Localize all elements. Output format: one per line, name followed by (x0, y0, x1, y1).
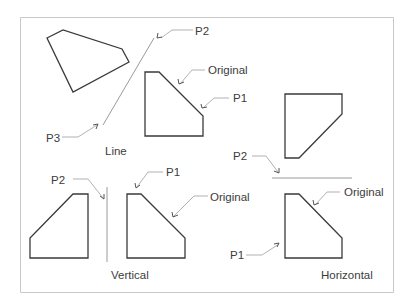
label-p1-line: P1 (233, 92, 247, 104)
diagram-border (21, 18, 394, 293)
label-p3: P3 (46, 132, 60, 144)
label-original-vertical: Original (210, 191, 250, 203)
label-p2-vertical: P2 (51, 174, 65, 186)
caption-horizontal: Horizontal (321, 269, 373, 281)
mirror-diagram: P2 Original P1 P3 Line P2 P1 Original Ve… (0, 0, 411, 308)
label-p1-vertical: P1 (166, 166, 180, 178)
label-p2-line: P2 (195, 25, 209, 37)
label-p2-horizontal: P2 (233, 150, 247, 162)
caption-vertical: Vertical (111, 269, 149, 281)
label-original-line: Original (208, 64, 248, 76)
label-p1-horizontal: P1 (230, 249, 244, 261)
caption-line: Line (105, 145, 127, 157)
label-original-horizontal: Original (344, 186, 384, 198)
